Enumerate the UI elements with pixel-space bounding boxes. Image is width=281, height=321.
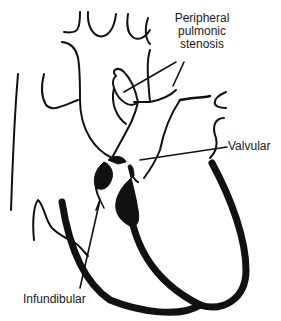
- vessel-left-branch: [64, 12, 80, 32]
- right-hook-1: [215, 92, 226, 108]
- left-edge-line: [11, 74, 18, 210]
- label-peripheral-pulmonic-stenosis: Peripheral pulmonic stenosis: [162, 12, 242, 51]
- leader-peripheral-1: [124, 62, 176, 92]
- right-pulmonary-branch: [180, 96, 210, 100]
- vena-cava: [62, 42, 112, 158]
- right-hook-2: [210, 118, 224, 158]
- septum: [128, 190, 200, 305]
- left-branch: [42, 74, 78, 108]
- leader-peripheral-2: [173, 62, 184, 86]
- infundibular-mass: [116, 165, 139, 226]
- vessel-u-1: [88, 12, 116, 36]
- pulmonic-valve-left: [94, 162, 112, 189]
- label-infundibular: Infundibular: [23, 293, 86, 306]
- heart-diagram: Peripheral pulmonic stenosis Valvular In…: [0, 0, 281, 321]
- valve-leaflets: [94, 156, 138, 226]
- label-valvular: Valvular: [228, 140, 270, 153]
- label-line-3: stenosis: [162, 38, 242, 51]
- left-ventricle-wall: [200, 163, 246, 307]
- pulmonary-trunk: [134, 90, 176, 102]
